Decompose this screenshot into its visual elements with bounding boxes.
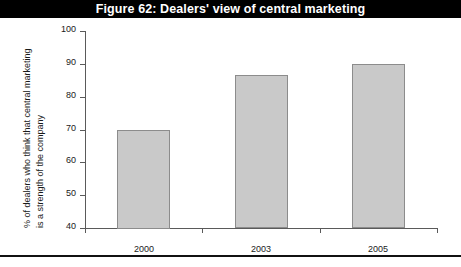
y-tick: 90 bbox=[80, 64, 85, 65]
y-tick-label: 80 bbox=[66, 90, 76, 100]
x-tick bbox=[437, 228, 438, 233]
y-tick-label: 70 bbox=[66, 123, 76, 133]
x-axis-label: 2000 bbox=[134, 244, 154, 254]
bar bbox=[117, 130, 170, 229]
y-tick-label: 40 bbox=[66, 221, 76, 231]
bar bbox=[352, 64, 405, 228]
y-tick: 80 bbox=[80, 97, 85, 98]
figure-container: Figure 62: Dealers' view of central mark… bbox=[0, 0, 461, 267]
y-tick: 50 bbox=[80, 195, 85, 196]
y-tick-label: 50 bbox=[66, 188, 76, 198]
y-axis-title: % of dealers who think that central mark… bbox=[22, 31, 58, 228]
y-axis-title-line-2: is a strength of the company bbox=[35, 115, 45, 228]
y-axis-line bbox=[85, 31, 86, 228]
x-tick bbox=[320, 228, 321, 233]
y-tick-label: 60 bbox=[66, 155, 76, 165]
x-tick bbox=[85, 228, 86, 233]
plot-area: 100908070605040 200020032005 bbox=[85, 31, 437, 228]
y-tick: 70 bbox=[80, 130, 85, 131]
x-tick bbox=[202, 228, 203, 233]
bottom-rule bbox=[0, 255, 461, 257]
x-axis-label: 2005 bbox=[368, 244, 388, 254]
figure-title-bar: Figure 62: Dealers' view of central mark… bbox=[0, 0, 461, 18]
y-tick: 60 bbox=[80, 162, 85, 163]
y-tick-label: 90 bbox=[66, 57, 76, 67]
x-axis-label: 2003 bbox=[251, 244, 271, 254]
figure-title: Figure 62: Dealers' view of central mark… bbox=[0, 0, 461, 18]
y-axis-title-line-1: % of dealers who think that central mark… bbox=[22, 48, 32, 228]
y-tick-label: 100 bbox=[61, 24, 76, 34]
bar bbox=[235, 75, 288, 228]
y-tick: 100 bbox=[80, 31, 85, 32]
